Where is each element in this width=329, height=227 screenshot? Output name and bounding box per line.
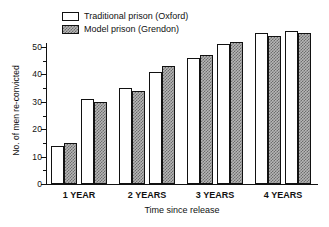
- bar-hatched-5: [230, 42, 243, 184]
- y-axis-title: No. of men re-convicted: [12, 51, 21, 171]
- y-minor-tick-25: [43, 116, 47, 117]
- y-axis-line: [46, 43, 47, 185]
- legend-label-traditional-prison: Traditional prison (Oxford): [84, 11, 188, 22]
- bar-light-4: [187, 58, 200, 184]
- y-minor-tick-5: [43, 170, 47, 171]
- bar-light-0: [51, 146, 64, 184]
- x-axis-title: Time since release: [46, 206, 318, 215]
- y-tick-label-50: 50: [18, 43, 42, 52]
- y-tick-label-20: 20: [18, 125, 42, 134]
- legend-swatch-hatched-icon: [62, 25, 79, 34]
- y-minor-tick-15: [43, 143, 47, 144]
- y-tick-label-0: 0: [18, 180, 42, 189]
- bar-light-2: [119, 88, 132, 184]
- y-minor-tick-45: [43, 61, 47, 62]
- bar-hatched-1: [94, 102, 107, 184]
- bar-chart: Traditional prison (Oxford) Model prison…: [0, 0, 329, 227]
- bar-light-5: [217, 44, 230, 184]
- bar-hatched-0: [64, 143, 77, 184]
- bar-light-7: [285, 31, 298, 184]
- bar-light-3: [149, 72, 162, 184]
- y-tick-label-10: 10: [18, 153, 42, 162]
- bar-light-6: [255, 33, 268, 184]
- legend-swatch-light-icon: [62, 12, 79, 21]
- legend-item-model-prison: Model prison (Grendon): [62, 23, 188, 35]
- bar-light-1: [81, 99, 94, 184]
- bar-hatched-3: [162, 66, 175, 184]
- y-tick-label-40: 40: [18, 70, 42, 79]
- bar-hatched-7: [298, 33, 311, 184]
- legend-label-model-prison: Model prison (Grendon): [84, 24, 179, 35]
- x-axis-line: [46, 184, 318, 185]
- bar-hatched-2: [132, 91, 145, 184]
- y-tick-label-30: 30: [18, 98, 42, 107]
- bar-hatched-4: [200, 55, 213, 184]
- bar-hatched-6: [268, 36, 281, 184]
- y-minor-tick-35: [43, 88, 47, 89]
- legend-item-traditional-prison: Traditional prison (Oxford): [62, 10, 188, 22]
- x-group-label-4-years: 4 YEARS: [243, 190, 323, 200]
- chart-legend: Traditional prison (Oxford) Model prison…: [62, 10, 188, 36]
